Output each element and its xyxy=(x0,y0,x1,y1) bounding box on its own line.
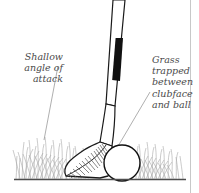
shallow-angle-of-attack-label: Shallow angle of attack xyxy=(11,51,63,85)
golf-ball xyxy=(104,145,140,181)
club-hosel xyxy=(100,104,115,146)
golf-impact-diagram: Shallow angle of attack Grass trapped be… xyxy=(0,0,199,193)
grass-trapped-label: Grass trapped between clubface and ball xyxy=(152,54,198,110)
